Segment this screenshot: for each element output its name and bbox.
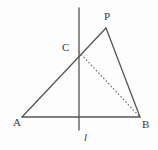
line-label-l: l: [84, 132, 87, 143]
vertex-label-P: P: [104, 11, 110, 22]
figure-canvas: [0, 0, 158, 150]
segment-PB: [106, 28, 140, 117]
geometry-figure: P C A B l: [0, 0, 158, 150]
vertex-label-B: B: [142, 119, 149, 130]
segment-CB-dotted: [79, 52, 140, 117]
vertex-label-C: C: [62, 42, 69, 53]
vertex-label-A: A: [13, 117, 21, 128]
